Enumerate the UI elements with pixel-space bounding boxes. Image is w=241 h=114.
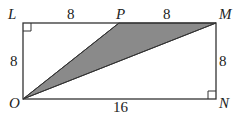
- measure-lo: 8: [10, 53, 18, 69]
- measure-pm: 8: [163, 6, 171, 22]
- measure-on: 16: [113, 99, 129, 114]
- vertex-label-n: N: [218, 95, 230, 111]
- right-angle-mark-n: [208, 91, 216, 99]
- geometry-diagram: L P M N O 8 8 8 8 16: [0, 0, 241, 114]
- vertex-label-m: M: [218, 6, 233, 22]
- measure-lp: 8: [67, 6, 75, 22]
- measure-mn: 8: [219, 53, 227, 69]
- vertex-label-l: L: [7, 6, 16, 22]
- right-angle-mark-l: [23, 23, 31, 31]
- vertex-label-o: O: [9, 95, 20, 111]
- vertex-label-p: P: [115, 6, 125, 22]
